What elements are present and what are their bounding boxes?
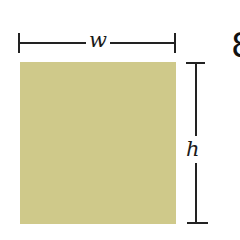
rectangle-shape bbox=[20, 62, 176, 224]
width-label: w bbox=[86, 30, 110, 51]
partial-figure-glyph: 8 bbox=[231, 28, 240, 62]
height-label: h bbox=[186, 136, 200, 163]
height-dimension-bottom-tick bbox=[187, 222, 208, 224]
width-dimension-right-tick bbox=[174, 33, 176, 53]
